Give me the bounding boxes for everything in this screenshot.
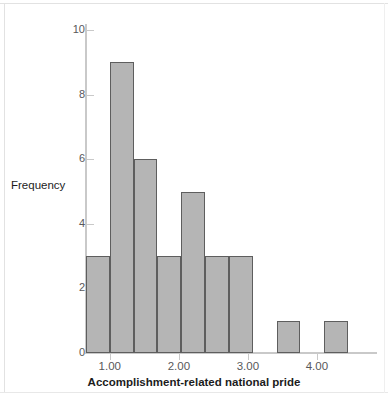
histogram-bar	[110, 62, 134, 353]
y-tick-mark	[87, 353, 94, 354]
histogram-bar	[229, 256, 253, 353]
x-tick-label: 3.00	[225, 360, 271, 373]
y-tick-mark	[87, 95, 94, 96]
histogram-bar	[277, 321, 301, 353]
histogram-bar	[157, 256, 181, 353]
y-tick-label: 2	[51, 282, 85, 293]
histogram-bar	[324, 321, 348, 353]
y-tick-mark	[87, 224, 94, 225]
histogram-bar	[134, 159, 158, 353]
histogram-figure: 0246810 1.002.003.004.00 Frequency Accom…	[0, 0, 388, 398]
x-tick-label: 4.00	[294, 360, 340, 373]
histogram-bar	[181, 192, 205, 354]
x-tick-label: 1.00	[87, 360, 133, 373]
y-axis-title: Frequency	[11, 178, 65, 192]
y-tick-label: 8	[51, 89, 85, 100]
histogram-bar	[205, 256, 229, 353]
x-axis-title: Accomplishment-related national pride	[0, 375, 388, 389]
y-tick-mark	[87, 159, 94, 160]
x-tick-label: 2.00	[156, 360, 202, 373]
y-tick-mark	[87, 30, 94, 31]
plot-area: 0246810 1.002.003.004.00	[0, 0, 388, 398]
y-tick-label: 6	[51, 153, 85, 164]
y-tick-label: 4	[51, 218, 85, 229]
y-tick-label: 10	[51, 24, 85, 35]
histogram-bar	[86, 256, 110, 353]
y-tick-label: 0	[51, 347, 85, 358]
